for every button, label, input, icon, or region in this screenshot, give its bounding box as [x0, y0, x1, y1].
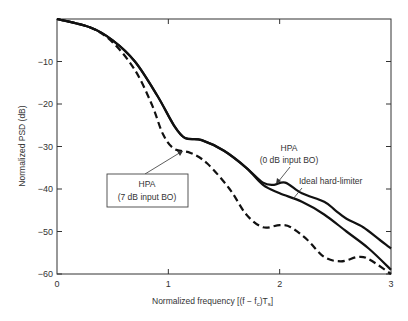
svg-text:HPA: HPA [281, 143, 298, 153]
x-tick-label: 3 [388, 279, 393, 289]
data-series [57, 19, 391, 274]
plot-frame [57, 19, 391, 274]
y-axis-title: Normalized PSD (dB) [17, 105, 27, 186]
x-tick-label: 1 [166, 279, 171, 289]
series-hpa-0db [57, 19, 391, 249]
svg-text:Ideal hard-limiter: Ideal hard-limiter [299, 176, 362, 186]
svg-text:HPA: HPA [139, 179, 156, 189]
y-tick-label: −10 [38, 57, 53, 67]
x-tick-label: 2 [277, 279, 282, 289]
y-tick-label: −30 [38, 142, 53, 152]
y-tick-label: −50 [38, 227, 53, 237]
x-tick-label: 0 [54, 279, 59, 289]
svg-text:(0 dB input BO): (0 dB input BO) [260, 155, 319, 165]
y-tick-label: −40 [38, 184, 53, 194]
x-axis-title: Normalized frequency [(f − fc)Ts] [152, 296, 273, 307]
y-axis-ticks: −10−20−30−40−50−60 [38, 57, 391, 280]
series-ideal-hard-limiter [57, 19, 391, 270]
y-tick-label: −60 [38, 269, 53, 279]
series-hpa-7db [57, 19, 391, 274]
psd-chart: −10−20−30−40−50−60 0123 Normalized PSD (… [0, 0, 408, 321]
y-tick-label: −20 [38, 99, 53, 109]
annotation-hpa-7db: HPA (7 dB input BO) [107, 151, 188, 207]
annotation-ideal-hard-limiter: Ideal hard-limiter [293, 176, 362, 199]
svg-text:(7 dB input BO): (7 dB input BO) [118, 192, 177, 202]
x-axis-ticks: 0123 [54, 19, 393, 289]
